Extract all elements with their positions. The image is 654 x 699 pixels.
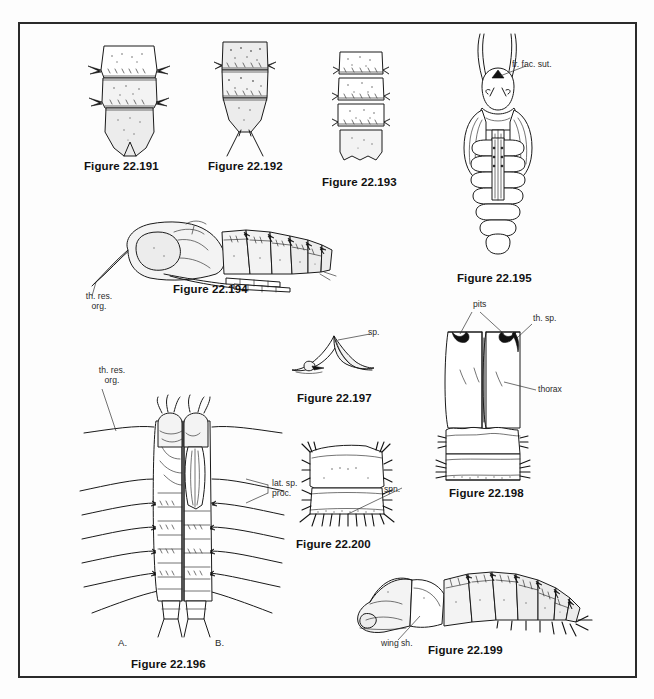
label-thorax: thorax — [538, 385, 562, 395]
figure-22-197-drawing — [290, 330, 380, 384]
figure-22-196-drawing — [78, 375, 288, 640]
label-pits: pits — [473, 300, 486, 310]
figure-22-195-caption: Figure 22.195 — [457, 272, 532, 284]
label-fr-fac-sut: fr. fac. sut. — [512, 60, 552, 70]
figure-22-193-drawing — [324, 48, 400, 170]
figure-22-193-caption: Figure 22.193 — [322, 176, 397, 188]
figure-22-194-drawing — [74, 212, 340, 292]
label-th-res-org-196: th. res. org. — [92, 366, 132, 385]
label-sp: sp. — [368, 328, 379, 338]
figure-22-194-caption: Figure 22.194 — [173, 283, 248, 295]
label-spn: spn. — [384, 485, 400, 495]
figure-22-200-caption: Figure 22.200 — [296, 538, 371, 550]
figure-22-199-caption: Figure 22.199 — [428, 644, 503, 656]
figure-22-197-caption: Figure 22.197 — [297, 392, 372, 404]
figure-22-191-drawing — [84, 40, 176, 162]
label-view-a: A. — [118, 638, 127, 649]
figure-22-199-drawing — [340, 558, 602, 646]
label-th-sp: th. sp. — [533, 314, 556, 324]
figure-22-198-drawing — [424, 318, 554, 500]
figure-22-191-caption: Figure 22.191 — [84, 160, 159, 172]
figure-22-192-caption: Figure 22.192 — [208, 160, 283, 172]
label-th-res-org-194: th. res. org. — [80, 292, 118, 311]
figure-22-196-caption: Figure 22.196 — [131, 658, 206, 670]
label-wing-sh: wing sh. — [381, 639, 413, 649]
label-view-b: B. — [215, 638, 224, 649]
figure-22-192-drawing — [205, 36, 285, 162]
illustration-plate: Figure 22.191 — [0, 0, 654, 699]
figure-22-198-caption: Figure 22.198 — [449, 487, 524, 499]
